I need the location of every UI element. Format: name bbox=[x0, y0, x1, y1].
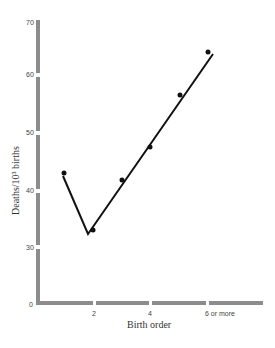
x-tick-2: 2 bbox=[92, 310, 96, 317]
y-tick-60: 60 bbox=[26, 71, 34, 78]
data-points bbox=[62, 50, 211, 233]
x-tick-4: 4 bbox=[148, 310, 152, 317]
fitted-line bbox=[63, 54, 213, 234]
chart: 70 60 50 40 30 0 2 4 6 or more Birth ord… bbox=[0, 0, 275, 348]
data-point-3 bbox=[120, 178, 125, 183]
x-tick-6-or-more: 6 or more bbox=[205, 310, 235, 317]
y-tick-30: 30 bbox=[26, 244, 34, 251]
data-point-5 bbox=[178, 93, 183, 98]
y-tick-0: 0 bbox=[29, 301, 33, 308]
data-point-2 bbox=[91, 228, 96, 233]
y-tick-70: 70 bbox=[26, 19, 34, 26]
x-axis-label: Birth order bbox=[127, 319, 172, 330]
data-point-1 bbox=[62, 171, 67, 176]
y-tick-50: 50 bbox=[26, 129, 34, 136]
data-point-6 bbox=[206, 50, 211, 55]
data-point-4 bbox=[148, 145, 153, 150]
y-tick-40: 40 bbox=[26, 187, 34, 194]
y-axis-label: Deaths/10³ births bbox=[10, 146, 21, 215]
